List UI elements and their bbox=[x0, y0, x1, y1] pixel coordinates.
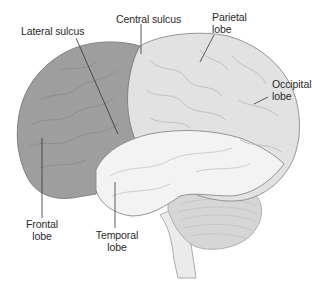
label-occipital-line2: lobe bbox=[272, 90, 311, 102]
label-parietal-line2: lobe bbox=[212, 23, 247, 35]
label-temporal-line1: Temporal bbox=[92, 229, 142, 241]
label-central-sulcus: Central sulcus bbox=[116, 13, 181, 25]
label-frontal-line2: lobe bbox=[18, 230, 66, 242]
label-temporal-lobe: Temporal lobe bbox=[92, 229, 142, 253]
label-temporal-line2: lobe bbox=[92, 241, 142, 253]
label-parietal-lobe: Parietal lobe bbox=[212, 11, 247, 35]
label-occipital-line1: Occipital bbox=[272, 78, 311, 90]
label-lateral-sulcus-text: Lateral sulcus bbox=[21, 25, 84, 37]
label-frontal-line1: Frontal bbox=[18, 218, 66, 230]
label-central-sulcus-text: Central sulcus bbox=[116, 13, 181, 25]
label-frontal-lobe: Frontal lobe bbox=[18, 218, 66, 242]
label-lateral-sulcus: Lateral sulcus bbox=[21, 25, 84, 37]
label-parietal-line1: Parietal bbox=[212, 11, 247, 23]
label-occipital-lobe: Occipital lobe bbox=[272, 78, 311, 102]
